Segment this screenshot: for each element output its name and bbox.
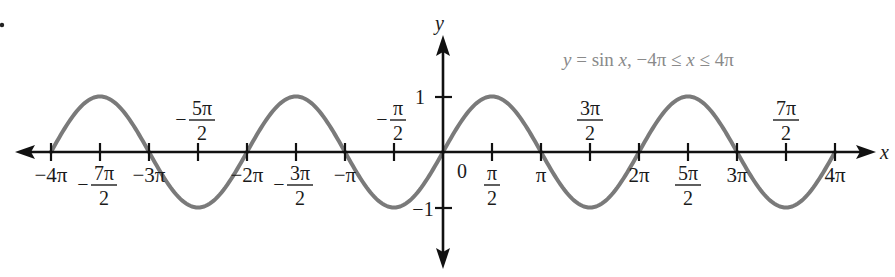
x-tick-label: π2− bbox=[376, 97, 406, 144]
svg-text:−: − bbox=[175, 108, 186, 130]
svg-text:−: − bbox=[77, 173, 88, 195]
x-tick-label: 5π2− bbox=[175, 97, 215, 144]
svg-text:3π: 3π bbox=[726, 163, 748, 187]
svg-text:−: − bbox=[273, 173, 284, 195]
x-tick-label: 7π2− bbox=[77, 162, 117, 209]
svg-text:2: 2 bbox=[295, 187, 305, 209]
svg-text:2: 2 bbox=[197, 122, 207, 144]
svg-text:2: 2 bbox=[487, 187, 497, 209]
svg-text:2: 2 bbox=[781, 122, 791, 144]
svg-text:5π: 5π bbox=[678, 162, 698, 184]
svg-text:7π: 7π bbox=[776, 97, 796, 119]
x-tick-label: −π bbox=[334, 163, 357, 187]
y-tick-label-1: 1 bbox=[415, 86, 425, 108]
svg-text:2: 2 bbox=[99, 187, 109, 209]
svg-text:7π: 7π bbox=[94, 162, 114, 184]
svg-text:2: 2 bbox=[683, 187, 693, 209]
x-tick-label: −2π bbox=[231, 163, 264, 187]
svg-text:π: π bbox=[487, 162, 497, 184]
svg-text:−4π: −4π bbox=[35, 163, 68, 187]
x-axis-label: x bbox=[879, 141, 889, 163]
x-tick-label: −4π bbox=[35, 163, 68, 187]
svg-text:3π: 3π bbox=[580, 97, 600, 119]
svg-text:2π: 2π bbox=[628, 163, 650, 187]
svg-text:3π: 3π bbox=[290, 162, 310, 184]
svg-text:2: 2 bbox=[585, 122, 595, 144]
x-tick-label: 5π2 bbox=[675, 162, 701, 209]
svg-text:π: π bbox=[536, 163, 547, 187]
x-tick-label: −3π bbox=[133, 163, 166, 187]
x-tick-label: π bbox=[536, 163, 547, 187]
sine-chart: x y 1 −1 0 −4π7π2−−3π5π2−−2π3π2−−ππ2−π2π… bbox=[0, 0, 895, 277]
svg-text:4π: 4π bbox=[824, 163, 846, 187]
y-tick-label-neg1: −1 bbox=[412, 198, 433, 220]
x-tick-label: 7π2 bbox=[773, 97, 799, 144]
y-axis-label: y bbox=[433, 12, 444, 35]
svg-text:−: − bbox=[376, 108, 387, 130]
svg-text:−3π: −3π bbox=[133, 163, 166, 187]
x-tick-label: 3π bbox=[726, 163, 748, 187]
x-tick-label: 3π2− bbox=[273, 162, 313, 209]
svg-text:−π: −π bbox=[334, 163, 357, 187]
svg-text:5π: 5π bbox=[192, 97, 212, 119]
svg-text:2: 2 bbox=[393, 122, 403, 144]
x-tick-label: 2π bbox=[628, 163, 650, 187]
y-axis: y 1 −1 0 bbox=[412, 12, 467, 269]
stray-dot bbox=[0, 23, 4, 27]
x-tick-label: 3π2 bbox=[577, 97, 603, 144]
origin-label: 0 bbox=[457, 160, 467, 182]
equation-annotation: y = sin x, −4π ≤ x ≤ 4π bbox=[561, 49, 734, 70]
svg-text:−2π: −2π bbox=[231, 163, 264, 187]
x-tick-label: 4π bbox=[824, 163, 846, 187]
svg-text:π: π bbox=[393, 97, 403, 119]
x-tick-label: π2 bbox=[484, 162, 500, 209]
